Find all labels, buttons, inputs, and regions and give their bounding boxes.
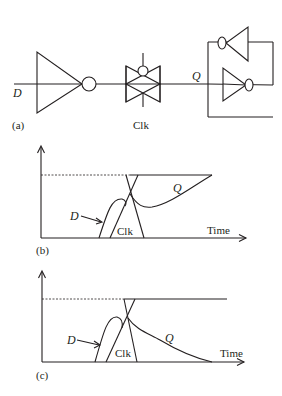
clk-curve-label: Clk: [115, 347, 131, 359]
latch-figure: D Q Clk (a) D Clk Q Time (b): [0, 0, 282, 396]
time-axis-label: Time: [207, 224, 230, 236]
input-d-label: D: [12, 86, 22, 100]
q-curve: [130, 175, 212, 207]
clock-label: Clk: [133, 119, 149, 131]
panel-c-label: (c): [36, 369, 49, 382]
clk-curve-label: Clk: [117, 225, 133, 237]
panel-b-waveform: D Clk Q Time (b): [36, 146, 246, 257]
output-q-label: Q: [192, 69, 201, 83]
d-curve-label: D: [69, 209, 79, 223]
panel-a-circuit: D Q Clk (a): [12, 27, 273, 132]
time-axis-label: Time: [220, 347, 243, 359]
d-curve-label: D: [66, 333, 76, 347]
transmission-gate-icon: [126, 53, 160, 107]
q-curve-label: Q: [173, 181, 182, 195]
panel-b-label: (b): [36, 244, 49, 257]
panel-a-label: (a): [12, 119, 25, 132]
q-curve-label: Q: [165, 331, 174, 345]
cross-coupled-latch-icon: [208, 27, 273, 117]
panel-c-waveform: D Clk Q Time (c): [36, 271, 244, 382]
input-inverter-icon: [37, 52, 96, 113]
